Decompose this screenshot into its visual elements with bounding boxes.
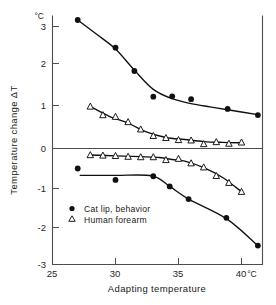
figure-container: 3 2 1 0 -1 -2 -3 °C 25 30 35 40 °C Adapt… <box>0 0 276 305</box>
legend-label-human-forearm: Human forearm <box>84 215 147 225</box>
data-point-filled-circle <box>113 177 119 183</box>
y-axis-unit-label: °C <box>34 11 44 21</box>
data-point-filled-circle <box>255 112 261 118</box>
y-ticklabel-neg1: -1 <box>38 183 46 194</box>
x-ticklabel-40: 40 <box>236 268 247 279</box>
y-ticklabel-0: 0 <box>41 143 46 154</box>
y-ticklabel-2: 2 <box>41 58 46 69</box>
y-ticklabel-1: 1 <box>41 100 46 111</box>
data-point-filled-circle <box>132 68 138 74</box>
data-point-filled-circle <box>225 106 231 112</box>
y-ticklabel-neg3: -3 <box>38 259 46 270</box>
data-point-filled-circle <box>113 45 119 51</box>
data-point-filled-circle <box>167 184 173 190</box>
legend-marker-filled-circle-icon <box>69 206 74 211</box>
x-axis-unit-label: °C <box>247 269 257 279</box>
data-point-filled-circle <box>186 196 192 202</box>
chart-canvas: 3 2 1 0 -1 -2 -3 °C 25 30 35 40 °C Adapt… <box>0 0 276 305</box>
x-ticklabel-35: 35 <box>173 268 184 279</box>
data-point-filled-circle <box>188 96 194 102</box>
y-ticklabel-neg2: -2 <box>38 222 46 233</box>
data-point-filled-circle <box>75 17 81 23</box>
data-point-filled-circle <box>255 243 261 249</box>
x-ticklabel-25: 25 <box>47 268 58 279</box>
data-point-filled-circle <box>150 173 156 179</box>
legend-label-cat-lip: Cat lip, behavior <box>84 204 150 214</box>
data-point-filled-circle <box>169 93 175 99</box>
y-axis-title: Temperature change ΔT <box>8 85 19 194</box>
y-ticklabel-3: 3 <box>41 21 46 32</box>
x-axis-title: Adapting temperature <box>108 283 206 294</box>
data-point-filled-circle <box>150 94 156 100</box>
data-point-filled-circle <box>75 166 81 172</box>
x-ticklabel-30: 30 <box>110 268 121 279</box>
data-point-filled-circle <box>223 215 229 221</box>
